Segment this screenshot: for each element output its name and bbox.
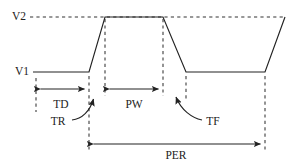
pulse-timing-diagram: V2 V1 TD PW PER TR TF: [0, 0, 287, 166]
v1-level-label: V1: [15, 65, 29, 77]
tf-label: TF: [206, 115, 219, 127]
td-label: TD: [53, 98, 68, 110]
tr-callout-arrow: [72, 99, 94, 120]
pulse-waveform-canvas: V2 V1 TD PW PER TR TF: [0, 0, 287, 166]
tr-label: TR: [51, 115, 66, 127]
pw-label: PW: [125, 98, 142, 110]
pulse-waveform-trace: [33, 17, 285, 72]
v2-level-label: V2: [12, 10, 26, 22]
tf-callout-arrow: [176, 97, 202, 120]
per-label: PER: [165, 149, 186, 161]
